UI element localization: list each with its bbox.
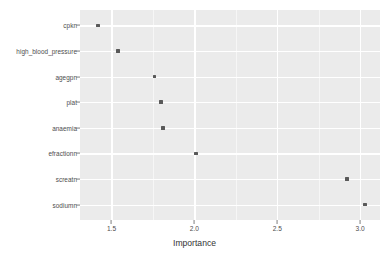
x-axis-tick-label: 1.5: [107, 225, 116, 232]
y-axis-tick-label: screatn: [56, 176, 77, 183]
data-point: [159, 100, 163, 104]
gridline-major-vertical: [111, 10, 112, 220]
gridline-major-vertical: [360, 10, 361, 220]
data-point: [116, 49, 120, 53]
y-axis-tick-mark: [76, 153, 80, 154]
gridline-minor-vertical: [319, 10, 320, 220]
x-axis-tick-label: 3.0: [356, 225, 365, 232]
y-axis-tick-label: agegpn: [55, 73, 77, 80]
x-axis-tick-mark: [360, 220, 361, 224]
x-axis-tick-mark: [111, 220, 112, 224]
gridline-major-horizontal: [80, 128, 380, 129]
gridline-minor-vertical: [236, 10, 237, 220]
x-axis-title: Importance: [0, 238, 389, 248]
gridline-minor-vertical: [153, 10, 154, 220]
y-axis-tick-label: high_blood_pressure: [16, 47, 77, 54]
y-axis-tick-label: sodiumn: [52, 201, 77, 208]
data-point: [161, 126, 165, 130]
x-axis-tick-mark: [277, 220, 278, 224]
y-axis-tick-mark: [76, 127, 80, 128]
gridline-major-horizontal: [80, 102, 380, 103]
y-axis-tick-mark: [76, 179, 80, 180]
plot-panel: [80, 10, 380, 220]
gridline-major-horizontal: [80, 51, 380, 52]
y-axis-tick-label: cpkn: [63, 22, 77, 29]
data-point: [96, 24, 100, 28]
x-axis-tick-label: 2.5: [273, 225, 282, 232]
gridline-major-vertical: [277, 10, 278, 220]
gridline-major-horizontal: [80, 77, 380, 78]
y-axis-tick-label: efractionn: [48, 150, 77, 157]
x-axis-tick-label: 2.0: [190, 225, 199, 232]
y-axis-tick-mark: [76, 102, 80, 103]
data-point: [363, 203, 367, 207]
y-axis-tick-mark: [76, 51, 80, 52]
data-point: [153, 75, 157, 79]
x-axis-tick-mark: [194, 220, 195, 224]
gridline-major-vertical: [194, 10, 195, 220]
gridline-major-horizontal: [80, 25, 380, 26]
gridline-major-horizontal: [80, 179, 380, 180]
data-point: [345, 177, 349, 181]
gridline-major-horizontal: [80, 153, 380, 154]
y-axis-tick-mark: [76, 204, 80, 205]
gridline-major-horizontal: [80, 205, 380, 206]
data-point: [194, 152, 198, 156]
y-axis-tick-label: anaemia: [52, 124, 77, 131]
y-axis-tick-mark: [76, 25, 80, 26]
variable-importance-plot: sodiumnscreatnefractionnanaemiaplatagegp…: [0, 0, 389, 256]
y-axis-tick-mark: [76, 76, 80, 77]
